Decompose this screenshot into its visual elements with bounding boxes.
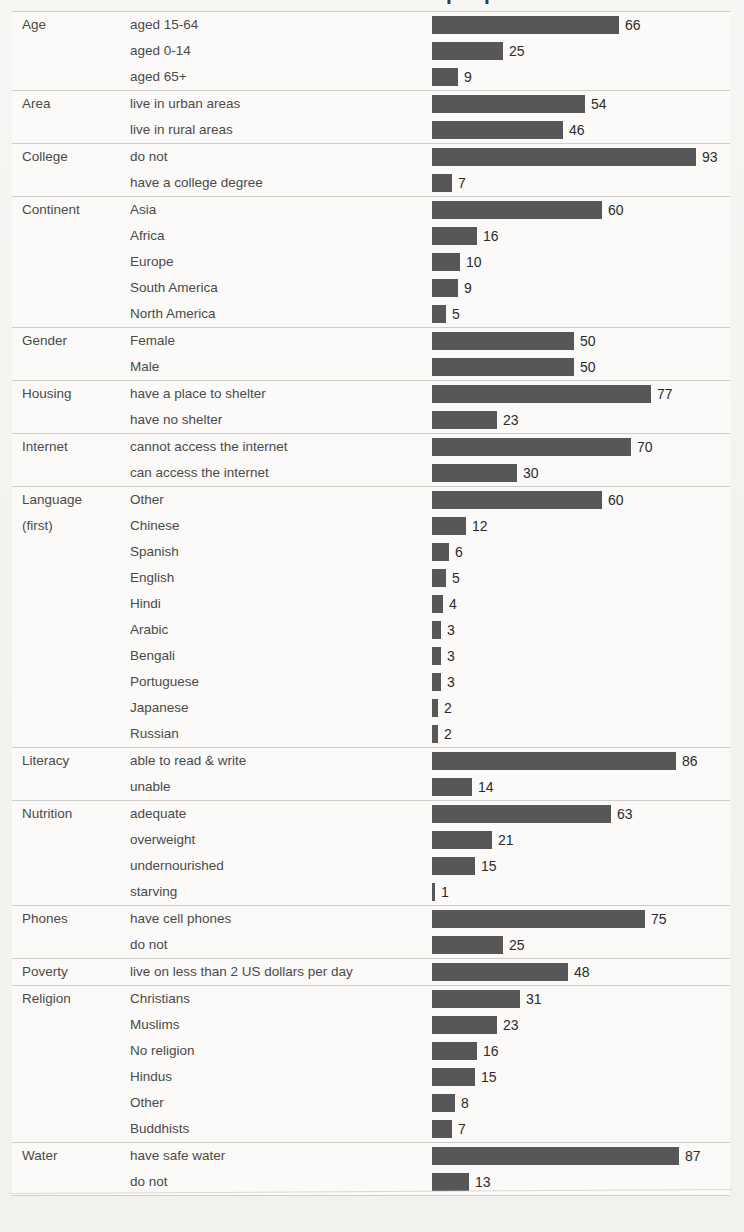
chart-row: Russian2 bbox=[130, 721, 730, 747]
chart-row: Portuguese3 bbox=[130, 669, 730, 695]
chart-row: have cell phones75 bbox=[130, 906, 730, 932]
chart-title-strip: If the world were 100 people bbox=[0, 0, 744, 11]
bar-area: 86 bbox=[432, 748, 730, 774]
group-label: Continent bbox=[22, 197, 122, 223]
bar bbox=[432, 411, 497, 429]
bar bbox=[432, 699, 438, 717]
bar bbox=[432, 990, 520, 1008]
bar-value-label: 86 bbox=[682, 748, 698, 774]
bar-area: 60 bbox=[432, 197, 730, 223]
bar-value-label: 66 bbox=[625, 12, 641, 38]
row-label: able to read & write bbox=[130, 748, 246, 774]
bar bbox=[432, 910, 645, 928]
bar bbox=[432, 438, 631, 456]
chart-row: Africa16 bbox=[130, 223, 730, 249]
row-label: aged 0-14 bbox=[130, 38, 191, 64]
chart-row: Muslims23 bbox=[130, 1012, 730, 1038]
row-label: Other bbox=[130, 1090, 164, 1116]
bar-area: 66 bbox=[432, 12, 730, 38]
bar-value-label: 46 bbox=[569, 117, 585, 143]
bar bbox=[432, 16, 619, 34]
bar-value-label: 5 bbox=[452, 301, 460, 327]
chart-row: can access the internet30 bbox=[130, 460, 730, 486]
bar-value-label: 13 bbox=[475, 1169, 491, 1195]
row-label: overweight bbox=[130, 827, 195, 853]
bar-area: 21 bbox=[432, 827, 730, 853]
chart-group: Waterhave safe water87do not13 bbox=[12, 1142, 730, 1196]
bar-area: 1 bbox=[432, 879, 730, 905]
chart-group: Nutritionadequate63overweight21undernour… bbox=[12, 800, 730, 905]
bar bbox=[432, 1094, 455, 1112]
bar-value-label: 70 bbox=[637, 434, 653, 460]
bar-value-label: 31 bbox=[526, 986, 542, 1012]
bar-value-label: 5 bbox=[452, 565, 460, 591]
bar bbox=[432, 358, 574, 376]
chart-group: Ageaged 15-6466aged 0-1425aged 65+9 bbox=[12, 11, 730, 90]
group-label: Literacy bbox=[22, 748, 122, 774]
bar-area: 30 bbox=[432, 460, 730, 486]
row-label: Africa bbox=[130, 223, 165, 249]
row-label: adequate bbox=[130, 801, 186, 827]
bar bbox=[432, 227, 477, 245]
bar bbox=[432, 778, 472, 796]
bar-value-label: 63 bbox=[617, 801, 633, 827]
bar-value-label: 30 bbox=[523, 460, 539, 486]
chart-row: live in urban areas54 bbox=[130, 91, 730, 117]
bar-value-label: 9 bbox=[464, 64, 472, 90]
bar bbox=[432, 1120, 452, 1138]
bar bbox=[432, 752, 676, 770]
row-label: Europe bbox=[130, 249, 174, 275]
bar bbox=[432, 148, 696, 166]
row-label: unable bbox=[130, 774, 171, 800]
chart-row: have a place to shelter77 bbox=[130, 381, 730, 407]
bar-value-label: 15 bbox=[481, 1064, 497, 1090]
bar-value-label: 2 bbox=[444, 721, 452, 747]
chart-row: unable14 bbox=[130, 774, 730, 800]
bar-area: 25 bbox=[432, 932, 730, 958]
group-label: Gender bbox=[22, 328, 122, 354]
chart-row: aged 65+9 bbox=[130, 64, 730, 90]
chart-row: do not93 bbox=[130, 144, 730, 170]
bar bbox=[432, 121, 563, 139]
chart-row: starving1 bbox=[130, 879, 730, 905]
chart-row: Hindus15 bbox=[130, 1064, 730, 1090]
bar-value-label: 10 bbox=[466, 249, 482, 275]
row-label: live on less than 2 US dollars per day bbox=[130, 959, 353, 985]
bar-area: 23 bbox=[432, 1012, 730, 1038]
bar-value-label: 50 bbox=[580, 354, 596, 380]
bar-area: 77 bbox=[432, 381, 730, 407]
bar bbox=[432, 621, 441, 639]
bar bbox=[432, 883, 435, 901]
row-label: do not bbox=[130, 932, 168, 958]
bar-value-label: 77 bbox=[657, 381, 673, 407]
row-label: aged 65+ bbox=[130, 64, 187, 90]
bar bbox=[432, 673, 441, 691]
chart-row: Asia60 bbox=[130, 197, 730, 223]
chart-row: live on less than 2 US dollars per day48 bbox=[130, 959, 730, 985]
group-label: College bbox=[22, 144, 122, 170]
chart-group: Literacyable to read & write86unable14 bbox=[12, 747, 730, 800]
bar-area: 9 bbox=[432, 275, 730, 301]
row-label: live in rural areas bbox=[130, 117, 233, 143]
bar-area: 31 bbox=[432, 986, 730, 1012]
bar bbox=[432, 647, 441, 665]
bar-area: 46 bbox=[432, 117, 730, 143]
bar bbox=[432, 68, 458, 86]
chart-group: GenderFemale50Male50 bbox=[12, 327, 730, 380]
bar-area: 7 bbox=[432, 1116, 730, 1142]
bar-area: 16 bbox=[432, 223, 730, 249]
chart-row: North America5 bbox=[130, 301, 730, 327]
bar bbox=[432, 517, 466, 535]
row-label: Female bbox=[130, 328, 175, 354]
chart-group: Arealive in urban areas54live in rural a… bbox=[12, 90, 730, 143]
bar bbox=[432, 1147, 679, 1165]
bar-area: 5 bbox=[432, 301, 730, 327]
bar-area: 23 bbox=[432, 407, 730, 433]
bar-value-label: 60 bbox=[608, 487, 624, 513]
bar bbox=[432, 253, 460, 271]
bar-value-label: 23 bbox=[503, 1012, 519, 1038]
bar-value-label: 4 bbox=[449, 591, 457, 617]
bar-value-label: 2 bbox=[444, 695, 452, 721]
bar-area: 2 bbox=[432, 721, 730, 747]
chart-row: undernourished15 bbox=[130, 853, 730, 879]
